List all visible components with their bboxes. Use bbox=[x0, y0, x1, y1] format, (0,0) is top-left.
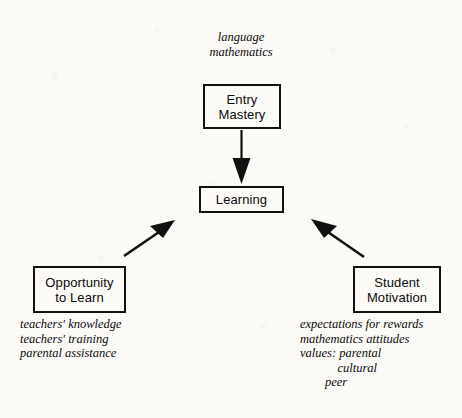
node-label-line: Student bbox=[374, 275, 420, 290]
opportunity-annotation: teachers' knowledge teachers' training p… bbox=[20, 317, 122, 361]
node-label-line: Mastery bbox=[219, 107, 266, 122]
annotation-line: teachers' training bbox=[20, 332, 122, 347]
node-opportunity-to-learn[interactable]: Opportunity to Learn bbox=[33, 266, 126, 313]
annotation-line: mathematics attitudes bbox=[300, 332, 423, 347]
annotation-line: peer bbox=[300, 375, 423, 390]
entry-mastery-annotation: language mathematics bbox=[177, 30, 305, 59]
arrow-opportunity-to-learning bbox=[124, 220, 175, 256]
arrow-motivation-to-learning bbox=[311, 219, 364, 257]
node-label-line: to Learn bbox=[55, 290, 104, 305]
annotation-line: teachers' knowledge bbox=[20, 317, 122, 332]
annotation-line: expectations for rewards bbox=[300, 317, 423, 332]
node-student-motivation[interactable]: Student Motivation bbox=[353, 266, 441, 313]
node-label-line: Motivation bbox=[367, 290, 427, 305]
node-entry-mastery[interactable]: Entry Mastery bbox=[203, 84, 281, 129]
diagram-canvas: language mathematics Entry Mastery Learn… bbox=[0, 0, 462, 418]
node-label-line: Learning bbox=[216, 192, 267, 207]
annotation-line: language bbox=[177, 30, 305, 45]
motivation-annotation: expectations for rewards mathematics att… bbox=[300, 317, 423, 390]
annotation-line: cultural bbox=[300, 361, 423, 376]
arrow-entry-mastery-to-learning bbox=[233, 130, 251, 184]
node-learning[interactable]: Learning bbox=[199, 186, 284, 213]
annotation-line: parental assistance bbox=[20, 346, 122, 361]
annotation-line: mathematics bbox=[177, 45, 305, 60]
annotation-line: values: parental bbox=[300, 346, 423, 361]
node-label-line: Entry bbox=[227, 92, 258, 107]
node-label-line: Opportunity bbox=[45, 275, 113, 290]
